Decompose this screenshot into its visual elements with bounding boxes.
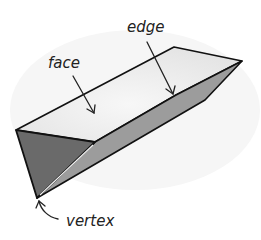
vertex-label: vertex (66, 212, 114, 230)
face-label: face (48, 54, 80, 72)
prism-diagram: face edge vertex (0, 0, 261, 240)
edge-label: edge (127, 18, 165, 36)
